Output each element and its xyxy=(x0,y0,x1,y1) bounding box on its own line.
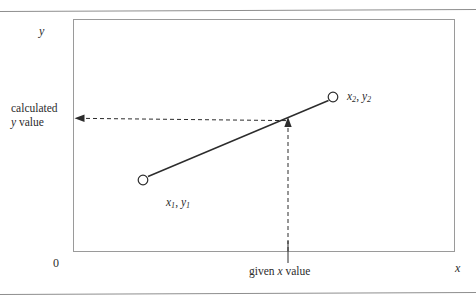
calculated-y-arrowhead-icon xyxy=(75,115,85,122)
origin-label: 0 xyxy=(53,256,59,270)
point-marker-1 xyxy=(138,175,148,185)
given-x-suffix: value xyxy=(283,265,311,277)
point-2-y-subscript: 2 xyxy=(367,95,371,104)
point-marker-2 xyxy=(328,92,338,102)
calculated-y-line1: calculated xyxy=(11,102,58,114)
given-x-prefix: given xyxy=(249,265,277,277)
x-axis-label: x xyxy=(455,261,460,275)
point-1-y-subscript: 1 xyxy=(186,201,190,210)
calculated-y-value-label: calculated y value xyxy=(11,102,58,129)
point-1-coordinate-label: x1, y1 xyxy=(166,196,190,211)
interpolation-line-segment xyxy=(148,101,329,177)
given-x-value-label: given x value xyxy=(249,265,310,279)
calculated-y-dashed-line xyxy=(86,118,286,120)
figure-page: y x 0 calculated y value given x value x… xyxy=(0,0,476,303)
y-axis-label: y xyxy=(39,24,44,38)
calculated-y-line2-rest: value xyxy=(16,116,44,128)
plot-graphics xyxy=(0,0,476,303)
point-2-coordinate-label: x2, y2 xyxy=(347,90,371,105)
